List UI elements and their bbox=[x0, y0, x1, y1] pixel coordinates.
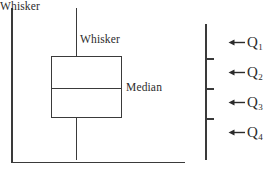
quartile-tick bbox=[205, 58, 214, 60]
quartile-scale-axis bbox=[205, 24, 207, 160]
label-whisker-bottom: Whisker bbox=[0, 0, 40, 12]
quartile-text: Q2 bbox=[247, 65, 262, 80]
left-arrow-icon bbox=[228, 97, 246, 108]
box-plot-figure: Whisker Median Whisker Q1 Q2 Q3 Q4 bbox=[0, 0, 278, 184]
left-arrow-icon bbox=[228, 67, 246, 78]
quartile-text: Q3 bbox=[247, 95, 262, 110]
quartile-text: Q4 bbox=[247, 125, 262, 140]
median-line bbox=[51, 88, 122, 90]
quartile-tick bbox=[205, 88, 214, 90]
left-arrow-icon bbox=[228, 127, 246, 138]
horizontal-axis bbox=[11, 162, 185, 164]
label-whisker-top: Whisker bbox=[80, 33, 120, 45]
label-median: Median bbox=[126, 81, 162, 93]
quartile-label-q4: Q4 bbox=[228, 124, 262, 140]
quartile-label-q1: Q1 bbox=[228, 34, 262, 50]
quartile-tick bbox=[205, 118, 214, 120]
quartile-label-q2: Q2 bbox=[228, 64, 262, 80]
quartile-label-q3: Q3 bbox=[228, 94, 262, 110]
vertical-axis bbox=[11, 8, 13, 163]
quartile-text: Q1 bbox=[247, 35, 262, 50]
left-arrow-icon bbox=[228, 37, 246, 48]
